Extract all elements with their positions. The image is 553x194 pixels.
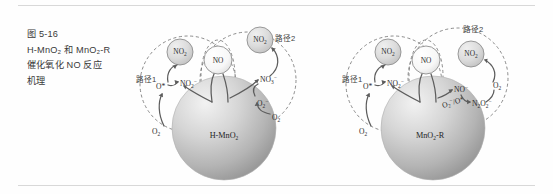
top-divider-rule	[18, 5, 535, 6]
figure-page: 图 5-16 H-MnO₂ 和 MnO₂-R 催化氧化 NO 反应 机理	[0, 0, 553, 194]
species-o2-bottom-left: O2	[152, 127, 160, 137]
mechanism-diagram-mno2-r: MnO2-R 路径1 NO2 O* NO2− O2 NO O2−/O*	[330, 10, 545, 188]
species-o2-bottom-left: O2	[359, 127, 367, 137]
mechanism-diagram-h-mno2: H-MnO2 路径1 NO2 O* NO2− O2 NO NO2	[124, 10, 334, 188]
pathway2-label: 路径2	[275, 33, 295, 43]
catalyst-core-label: MnO2-R	[416, 131, 445, 141]
caption-line-2: H-MnO₂ 和 MnO₂-R	[27, 43, 135, 59]
species-o-star-left: O*	[156, 82, 165, 91]
species-no3-minus: NO3−	[260, 74, 277, 84]
catalyst-core-sphere	[172, 76, 276, 180]
caption-line-3: 催化氧化 NO 反应	[27, 58, 135, 74]
caption-line-1: 图 5-16	[27, 27, 135, 43]
pathway1-label: 路径1	[136, 74, 156, 84]
catalyst-core-sphere	[381, 76, 485, 180]
arrow-o2-to-no2-bubble	[485, 60, 495, 82]
arrowhead-o2-to-no2-bubble	[484, 59, 488, 64]
caption-line-4: 机理	[27, 74, 135, 90]
species-o2-right: O2	[272, 113, 280, 123]
species-o-star-left: O*	[363, 82, 372, 91]
arrow-o2-to-o-star	[159, 94, 164, 126]
pathway2-label: 路径2	[463, 24, 483, 34]
arrow-no3-to-no2-bubble	[270, 48, 278, 76]
no-center-bubble-label: NO	[213, 56, 224, 65]
arrow-o2-to-o-star	[366, 94, 371, 126]
species-o2-right: O2	[493, 81, 501, 91]
catalyst-core-label: H-MnO2	[210, 131, 239, 141]
pathway1-label: 路径1	[342, 74, 362, 84]
figure-caption: 图 5-16 H-MnO₂ 和 MnO₂-R 催化氧化 NO 反应 机理	[27, 27, 135, 89]
no-center-bubble-label: NO	[421, 56, 432, 65]
